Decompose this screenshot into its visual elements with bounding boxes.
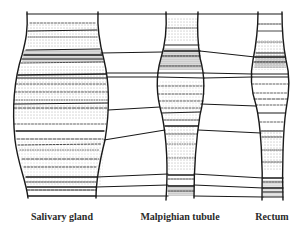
salivary-gland-chromosome: [14, 12, 109, 198]
rectum-chromosome: [251, 12, 288, 200]
malpighian-tubule-chromosome: [157, 12, 204, 200]
banding-diagram: [0, 0, 296, 234]
label-rectum: Rectum: [255, 211, 288, 222]
label-salivary-gland: Salivary gland: [31, 211, 93, 222]
label-malpighian-tubule: Malpighian tubule: [140, 211, 219, 222]
